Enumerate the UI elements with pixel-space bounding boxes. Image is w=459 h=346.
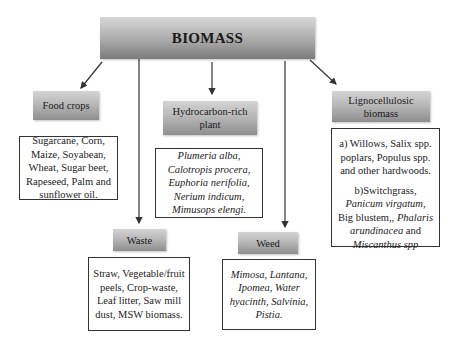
lignocellulosic-items: a) Willows, Salix spp. poplars, Populus … — [331, 128, 440, 247]
weed-text: Mimosa, Lantana, Ipomea, Water hyacinth,… — [227, 268, 311, 322]
lignocellulosic-b5: and — [406, 225, 421, 236]
weed-header: Weed — [238, 232, 298, 254]
lignocellulosic-text-a: a) Willows, Salix spp. poplars, Populus … — [336, 137, 435, 178]
diagram-title: BIOMASS — [100, 17, 315, 59]
food-crops-header: Food crops — [33, 91, 99, 120]
hydrocarbon-text: Plumeria alba, Calotropis procera, Eupho… — [160, 149, 258, 217]
hydrocarbon-header: Hydrocarbon-rich plant — [163, 101, 257, 135]
waste-items: Straw, Vegetable/fruit peels, Crop-waste… — [88, 257, 190, 331]
waste-text: Straw, Vegetable/fruit peels, Crop-waste… — [93, 267, 185, 321]
lignocellulosic-b3: Big blustem,, — [338, 212, 394, 223]
lignocellulosic-text-b: b)Switchgrass, Panicum virgatum, Big blu… — [336, 184, 435, 252]
lignocellulosic-b1: b)Switchgrass, — [354, 185, 416, 196]
hydrocarbon-items: Plumeria alba, Calotropis procera, Eupho… — [155, 148, 263, 218]
lignocellulosic-b2: Panicum virgatum — [345, 198, 422, 209]
lignocellulosic-b6: Miscanthus spp — [353, 239, 419, 250]
lignocellulosic-header: Lignocellulosic biomass — [332, 91, 430, 122]
food-crops-text: Sugarcane, Corn, Maize, Soyabean, Wheat,… — [24, 134, 113, 202]
waste-header: Waste — [113, 229, 166, 251]
weed-items: Mimosa, Lantana, Ipomea, Water hyacinth,… — [222, 259, 316, 330]
food-crops-items: Sugarcane, Corn, Maize, Soyabean, Wheat,… — [19, 136, 118, 200]
